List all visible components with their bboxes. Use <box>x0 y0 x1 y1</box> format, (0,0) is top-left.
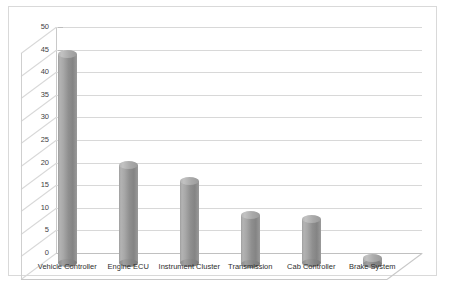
bar <box>119 161 138 267</box>
bar <box>180 177 199 267</box>
chart-frame: 05101520253035404550 Vehicle ControllerE… <box>8 6 437 276</box>
bar-cylinder-body <box>119 165 138 263</box>
chart-root: 05101520253035404550 Vehicle ControllerE… <box>0 0 454 286</box>
x-axis-labels: Vehicle ControllerEngine ECUInstrument C… <box>9 259 438 275</box>
bar-cylinder-body <box>58 54 77 263</box>
bar-cylinder-body <box>302 219 321 263</box>
bar-cylinder-top <box>180 177 199 185</box>
bar-cylinder-top <box>241 211 260 219</box>
chart-title <box>0 0 454 2</box>
floor-front-edge <box>21 279 387 280</box>
x-axis-category-label: Brake System <box>327 263 417 271</box>
bar-cylinder-body <box>241 215 260 264</box>
bar-cylinder-top <box>119 161 138 169</box>
bar <box>58 50 77 267</box>
bar-series <box>9 7 438 277</box>
bar-cylinder-top <box>58 50 77 58</box>
bar-cylinder-top <box>302 215 321 223</box>
bar-cylinder-body <box>180 181 199 263</box>
